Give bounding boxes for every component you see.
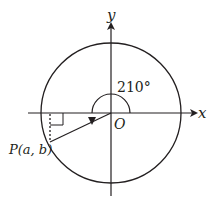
right-angle-marker <box>50 113 63 125</box>
y-axis-label: y <box>106 6 116 24</box>
angle-label: 210° <box>117 79 151 95</box>
point-label: P(a, b) <box>8 142 52 157</box>
terminal-side <box>50 113 111 142</box>
origin-label: O <box>114 116 126 132</box>
x-axis-label: x <box>198 104 207 122</box>
unit-circle-diagram: y x O 210° P(a, b) <box>0 0 214 206</box>
